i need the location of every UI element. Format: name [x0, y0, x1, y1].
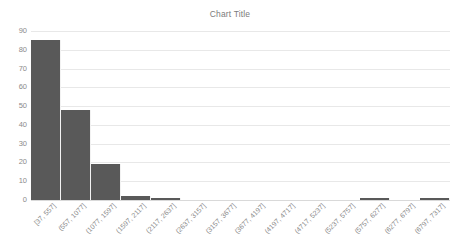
y-axis-tick-label: 90 — [0, 27, 27, 35]
histogram-bar — [420, 198, 450, 201]
y-axis: 9080706050403020100 — [0, 31, 27, 200]
y-axis-tick-label: 0 — [0, 196, 27, 204]
histogram-bar — [91, 164, 121, 200]
y-axis-tick-label: 60 — [0, 84, 27, 92]
y-axis-tick-label: 10 — [0, 177, 27, 185]
y-axis-tick-label: 80 — [0, 46, 27, 54]
histogram-bar — [61, 110, 91, 200]
histogram-chart: Chart Title 9080706050403020100 [37, 557… — [0, 0, 460, 247]
y-axis-tick-label: 50 — [0, 102, 27, 110]
y-axis-tick-label: 40 — [0, 121, 27, 129]
y-axis-tick-label: 20 — [0, 159, 27, 167]
histogram-bar — [360, 198, 390, 201]
y-axis-tick-label: 70 — [0, 65, 27, 73]
y-axis-tick-label: 30 — [0, 140, 27, 148]
histogram-bar — [151, 198, 181, 201]
histogram-bar — [121, 196, 151, 200]
bars-layer — [31, 31, 450, 200]
chart-title: Chart Title — [0, 9, 460, 19]
x-axis: [37, 557](557, 1077](1077, 1597](1597, 2… — [31, 202, 450, 247]
x-axis-line — [31, 200, 450, 201]
histogram-bar — [31, 40, 61, 200]
